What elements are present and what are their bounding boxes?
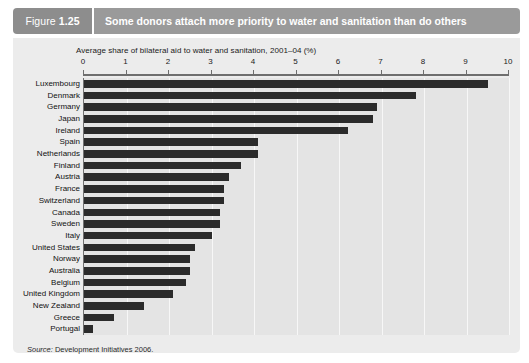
bar-row (84, 277, 509, 289)
category-label: Denmark (13, 90, 80, 102)
x-axis-line (83, 74, 509, 76)
bar (84, 325, 93, 333)
x-axis-tick (253, 70, 254, 74)
bar (84, 103, 377, 111)
x-axis-tick (168, 70, 169, 74)
bar-row (84, 207, 509, 219)
bar (84, 197, 224, 205)
bar (84, 80, 488, 88)
gridline (509, 78, 510, 335)
bar-row (84, 148, 509, 160)
x-axis-tick-label: 10 (504, 57, 513, 66)
source-note: Source: Development Initiatives 2006. (27, 345, 153, 354)
category-label: United States (13, 242, 80, 254)
chart-panel: Average share of bilateral aid to water … (13, 38, 520, 353)
x-axis-tick-label: 0 (81, 57, 85, 66)
bar-row (84, 113, 509, 125)
bar (84, 138, 258, 146)
bar (84, 302, 144, 310)
bar (84, 314, 114, 322)
category-label: Spain (13, 136, 80, 148)
x-axis-tick-label: 7 (378, 57, 382, 66)
x-axis-tick (126, 70, 127, 74)
bar (84, 173, 229, 181)
x-axis-tick-label: 9 (463, 57, 467, 66)
category-label: Australia (13, 265, 80, 277)
bar-row (84, 323, 509, 335)
x-axis-tick-label: 2 (166, 57, 170, 66)
x-axis-title: Average share of bilateral aid to water … (76, 46, 316, 55)
bar-row (84, 195, 509, 207)
category-label: Belgium (13, 277, 80, 289)
bar-row (84, 78, 509, 90)
x-axis-tick (211, 70, 212, 74)
category-label: Norway (13, 253, 80, 265)
category-label: Netherlands (13, 148, 80, 160)
x-axis-tick (83, 70, 84, 74)
bar-row (84, 101, 509, 113)
x-axis-tick-label: 6 (336, 57, 340, 66)
plot-area (83, 78, 509, 335)
bar (84, 267, 190, 275)
bar-row (84, 300, 509, 312)
bar (84, 209, 220, 217)
category-label: Greece (13, 312, 80, 324)
x-axis-tick-label: 8 (421, 57, 425, 66)
bar-row (84, 312, 509, 324)
figure-number-tab: Figure 1.25 (13, 8, 92, 34)
x-axis-tick-label: 5 (293, 57, 297, 66)
figure-label-word: Figure (25, 15, 55, 27)
category-label: Germany (13, 101, 80, 113)
bar-row (84, 160, 509, 172)
source-text: Development Initiatives 2006. (53, 345, 153, 354)
bar (84, 150, 258, 158)
x-axis-tick (423, 70, 424, 74)
x-axis-tick (381, 70, 382, 74)
figure-header: Figure 1.25 Some donors attach more prio… (13, 8, 520, 34)
bar (84, 162, 241, 170)
bar (84, 115, 373, 123)
category-label: France (13, 183, 80, 195)
bar-row (84, 288, 509, 300)
bar (84, 232, 212, 240)
bar (84, 127, 348, 135)
bar-row (84, 242, 509, 254)
bar-row (84, 218, 509, 230)
x-axis-tick (296, 70, 297, 74)
category-label: United Kingdom (13, 288, 80, 300)
bar-row (84, 253, 509, 265)
category-label: Portugal (13, 323, 80, 335)
category-label: Austria (13, 171, 80, 183)
bar (84, 244, 195, 252)
bar-row (84, 230, 509, 242)
bar (84, 290, 173, 298)
source-prefix: Source: (27, 345, 53, 354)
x-axis-tick (338, 70, 339, 74)
bar (84, 220, 220, 228)
bar (84, 279, 186, 287)
bar-row (84, 90, 509, 102)
bar-row (84, 125, 509, 137)
bar (84, 255, 190, 263)
figure-number: 1.25 (59, 15, 80, 27)
bar (84, 92, 416, 100)
x-axis-tick (466, 70, 467, 74)
category-label: Canada (13, 207, 80, 219)
bar-row (84, 171, 509, 183)
figure-container: Figure 1.25 Some donors attach more prio… (0, 0, 529, 363)
category-label: Japan (13, 113, 80, 125)
category-label: Ireland (13, 125, 80, 137)
x-axis-tick-label: 1 (123, 57, 127, 66)
bar-row (84, 183, 509, 195)
figure-title: Some donors attach more priority to wate… (94, 8, 520, 34)
category-label: Sweden (13, 218, 80, 230)
category-label: New Zealand (13, 300, 80, 312)
category-label: Luxembourg (13, 78, 80, 90)
category-label: Finland (13, 160, 80, 172)
bar-row (84, 136, 509, 148)
x-axis-tick-label: 4 (251, 57, 255, 66)
bar (84, 185, 224, 193)
x-axis-tick (508, 70, 509, 74)
category-label: Italy (13, 230, 80, 242)
bar-row (84, 265, 509, 277)
